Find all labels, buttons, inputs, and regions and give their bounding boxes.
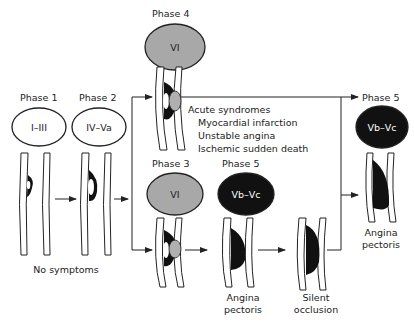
silent-caption-line2: occlusion [294,304,338,315]
phase-2-label: Phase 2 [79,92,116,103]
stage-phase-2: Phase 2 IV–Va [72,92,126,255]
lesion-type-phase-5b: Vb–Vc [367,122,396,133]
acute-item-2: Unstable angina [198,130,275,141]
lesion-type-phase-2: IV–Va [86,122,112,133]
acute-item-1: Myocardial infarction [198,117,298,128]
angina-caption-1-line2: pectoris [224,304,262,315]
stage-phase-3: Phase 3 VI [147,158,203,287]
thrombus [169,91,181,111]
lesion-type-phase-5a: Vb–Vc [231,189,260,200]
phase-3-label: Phase 3 [152,158,189,169]
angina-caption-2-line1: Angina [364,227,397,238]
phase-1-label: Phase 1 [20,92,57,103]
stage-silent-occlusion: Silent occlusion [294,218,338,315]
lesion-type-phase-4: VI [170,42,179,53]
phase-4-label: Phase 4 [152,8,189,19]
fibrotic-plaque [231,228,245,270]
atherosclerosis-progression-diagram: Phase 1 I–III Phase 2 IV–Va Phase 4 VI [0,0,414,325]
artery-phase-2 [81,153,112,255]
lesion-type-phase-1: I–III [31,122,47,133]
angina-caption-1-line1: Angina [226,292,259,303]
branch-connector [132,97,152,250]
artery-phase-1 [20,153,51,255]
fibrotic-plaque [373,160,389,209]
no-symptoms-caption: No symptoms [33,264,99,275]
acute-syndromes-caption: Acute syndromes Myocardial infarction Un… [188,104,308,154]
stage-phase-5-angina: Phase 5 Vb–Vc Angina pectoris [218,158,274,315]
acute-item-3: Ischemic sudden death [198,143,308,154]
phase-5b-label: Phase 5 [362,92,399,103]
silent-caption-line1: Silent [303,292,330,303]
thrombus [169,240,181,258]
stage-phase-4: Phase 4 VI [145,8,205,150]
lesion-type-phase-3: VI [170,189,179,200]
stage-phase-5-right: Phase 5 Vb–Vc Angina pectoris [356,92,408,250]
acute-title: Acute syndromes [188,104,270,115]
stage-phase-1: Phase 1 I–III [12,92,66,255]
angina-caption-2-line2: pectoris [362,239,400,250]
phase-5a-label: Phase 5 [222,158,259,169]
